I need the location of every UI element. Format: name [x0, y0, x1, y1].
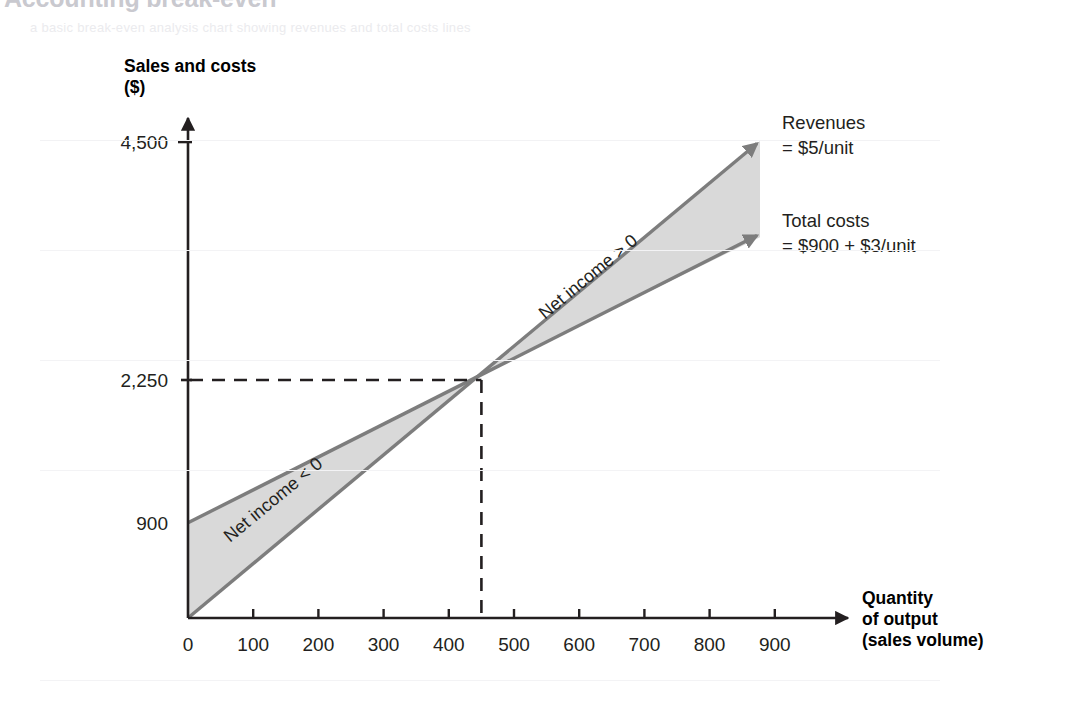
breakeven-plot: 4,500 2,250 900 010020030040050060070080… — [0, 0, 1077, 703]
x-tick-label-800: 800 — [694, 634, 726, 655]
x-tick-label-300: 300 — [368, 634, 400, 655]
x-tick-label-500: 500 — [498, 634, 530, 655]
y-tick-label-900: 900 — [136, 513, 168, 534]
total-costs-line — [188, 236, 757, 523]
y-tick-label-2250: 2,250 — [120, 370, 168, 391]
x-tick-label-600: 600 — [563, 634, 595, 655]
x-tick-label-0: 0 — [183, 634, 194, 655]
x-tick-label-700: 700 — [629, 634, 661, 655]
y-tick-label-4500: 4,500 — [120, 132, 168, 153]
x-tick-label-200: 200 — [303, 634, 335, 655]
x-tick-label-400: 400 — [433, 634, 465, 655]
x-tick-label-900: 900 — [759, 634, 791, 655]
series-lines — [188, 144, 757, 619]
x-axis-ticks: 0100200300400500600700800900 — [183, 609, 791, 655]
y-axis-ticks: 4,500 2,250 900 — [120, 132, 192, 534]
x-tick-label-100: 100 — [237, 634, 269, 655]
chart-page: Accounting break-even a basic break-even… — [0, 0, 1077, 703]
